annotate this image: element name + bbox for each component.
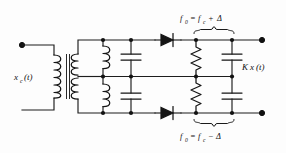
node-bottom-capacitor bbox=[129, 111, 133, 115]
schematic-canvas: f 0 = f c + Δ f 0 = f c − Δ x c (t) K x … bbox=[0, 0, 286, 153]
upper-freq-equals: = bbox=[190, 14, 196, 23]
node-center-capacitor bbox=[129, 74, 133, 78]
circuit-diagram: f 0 = f c + Δ f 0 = f c − Δ x c (t) K x … bbox=[0, 0, 286, 153]
label-output-signal: K x (t) bbox=[241, 62, 265, 72]
node-top-capacitor bbox=[129, 38, 133, 42]
output-terminal-bottom-dot bbox=[259, 110, 264, 115]
node-center-inductor bbox=[101, 74, 105, 78]
lower-freq-lhs-subscript: 0 bbox=[185, 137, 188, 143]
input-symbol: x bbox=[13, 72, 18, 82]
upper-freq-operator: + bbox=[208, 14, 214, 23]
lower-freq-operator: − bbox=[208, 132, 214, 141]
node-center-resistor bbox=[194, 74, 198, 78]
output-argument: (t) bbox=[256, 62, 265, 72]
output-symbol: x bbox=[249, 62, 254, 72]
upper-freq-lhs-subscript: 0 bbox=[185, 19, 188, 25]
input-argument: (t) bbox=[24, 72, 33, 82]
node-bottom-inductor bbox=[101, 111, 105, 115]
node-top-filtercap bbox=[230, 38, 234, 42]
output-prefix: K bbox=[241, 62, 249, 72]
lower-freq-equals: = bbox=[190, 132, 196, 141]
input-subscript: c bbox=[20, 78, 23, 84]
node-bottom-resistor bbox=[194, 111, 198, 115]
output-terminal-top-dot bbox=[259, 37, 264, 42]
node-top-resistor bbox=[194, 38, 198, 42]
node-top-inductor bbox=[101, 38, 105, 42]
lower-freq-delta: Δ bbox=[215, 132, 221, 141]
node-bottom-filtercap bbox=[230, 111, 234, 115]
upper-freq-delta: Δ bbox=[216, 14, 222, 23]
node-center-filtercap bbox=[230, 74, 234, 78]
